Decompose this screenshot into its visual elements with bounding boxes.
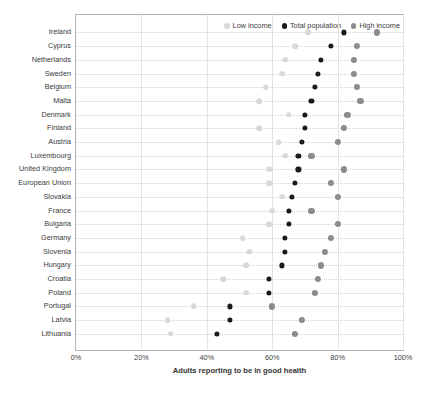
data-point-total-population[interactable] [342,30,347,35]
row-gridline [76,128,403,129]
data-point-low-income[interactable] [279,71,285,77]
row-gridline [76,211,403,212]
y-axis-label-croatia: Croatia [0,275,71,283]
data-point-high-income[interactable] [357,98,363,104]
x-axis-tick-label: 80% [330,353,345,363]
data-point-total-population[interactable] [227,304,232,309]
data-point-total-population[interactable] [302,112,307,117]
data-point-high-income[interactable] [321,249,327,255]
data-point-high-income[interactable] [328,180,334,186]
x-axis-tick-label: 0% [71,353,82,363]
data-point-total-population[interactable] [214,331,219,336]
data-point-total-population[interactable] [279,263,284,268]
y-axis-label-sweden: Sweden [0,70,71,78]
data-point-total-population[interactable] [289,194,294,199]
y-axis-label-poland: Poland [0,289,71,297]
row-gridline [76,156,403,157]
data-point-high-income[interactable] [299,317,305,323]
data-point-high-income[interactable] [335,194,341,200]
y-axis-label-germany: Germany [0,234,71,242]
data-point-low-income[interactable] [282,57,288,63]
y-axis-label-luxembourg: Luxembourg [0,152,71,160]
data-point-high-income[interactable] [335,139,341,145]
data-point-low-income[interactable] [168,331,174,337]
data-point-high-income[interactable] [292,331,298,337]
data-point-high-income[interactable] [335,221,341,227]
data-point-high-income[interactable] [315,276,321,282]
data-point-total-population[interactable] [328,44,333,49]
data-point-low-income[interactable] [220,276,226,282]
row-gridline [76,293,403,294]
data-point-total-population[interactable] [292,181,297,186]
data-point-total-population[interactable] [296,167,301,172]
data-point-total-population[interactable] [283,249,288,254]
data-point-low-income[interactable] [266,180,272,186]
y-axis-label-malta: Malta [0,97,71,105]
data-point-high-income[interactable] [318,262,324,268]
data-point-total-population[interactable] [266,276,271,281]
x-axis-tick-label: 40% [199,353,214,363]
data-point-high-income[interactable] [351,57,357,63]
data-point-high-income[interactable] [374,29,380,35]
data-point-low-income[interactable] [243,263,249,269]
y-axis-label-netherlands: Netherlands [0,56,71,64]
data-point-total-population[interactable] [286,208,291,213]
data-point-low-income[interactable] [269,208,275,214]
data-point-low-income[interactable] [263,84,269,90]
data-point-low-income[interactable] [282,153,288,159]
data-point-low-income[interactable] [256,126,262,132]
data-point-high-income[interactable] [312,290,318,296]
data-point-total-population[interactable] [227,318,232,323]
y-axis-label-belgium: Belgium [0,83,71,91]
y-axis-label-bulgaria: Bulgaria [0,220,71,228]
data-point-low-income[interactable] [305,30,311,36]
row-gridline [76,334,403,335]
data-point-total-population[interactable] [266,290,271,295]
data-point-total-population[interactable] [286,222,291,227]
row-gridline [76,224,403,225]
row-gridline [76,169,403,170]
data-point-total-population[interactable] [309,98,314,103]
data-point-low-income[interactable] [165,317,171,323]
data-point-total-population[interactable] [302,126,307,131]
data-point-high-income[interactable] [328,235,334,241]
data-point-high-income[interactable] [308,153,314,159]
data-point-low-income[interactable] [243,290,249,296]
row-gridline [76,265,403,266]
data-point-low-income[interactable] [256,98,262,104]
data-point-low-income[interactable] [266,221,272,227]
data-point-high-income[interactable] [344,112,350,118]
data-point-high-income[interactable] [341,125,347,131]
y-axis-label-cyprus: Cyprus [0,42,71,50]
data-point-total-population[interactable] [296,153,301,158]
row-gridline [76,32,403,33]
y-axis-label-united-kingdom: United Kingdom [0,165,71,173]
data-point-high-income[interactable] [308,207,314,213]
data-point-high-income[interactable] [351,70,357,76]
row-gridline [76,252,403,253]
data-point-low-income[interactable] [279,194,285,200]
data-point-low-income[interactable] [276,139,282,145]
data-point-total-population[interactable] [312,85,317,90]
row-gridline [76,142,403,143]
vertical-gridline [403,15,404,350]
data-point-total-population[interactable] [315,71,320,76]
data-point-low-income[interactable] [266,167,272,173]
data-point-high-income[interactable] [354,84,360,90]
data-point-low-income[interactable] [292,43,298,49]
data-point-high-income[interactable] [354,43,360,49]
data-point-total-population[interactable] [319,57,324,62]
data-point-low-income[interactable] [240,235,246,241]
data-point-high-income[interactable] [269,303,275,309]
data-point-low-income[interactable] [191,304,197,310]
data-point-low-income[interactable] [247,249,253,255]
y-axis-label-finland: Finland [0,124,71,132]
data-point-high-income[interactable] [341,166,347,172]
y-axis-label-latvia: Latvia [0,316,71,324]
x-axis-tick-label: 100% [394,353,413,363]
row-gridline [76,279,403,280]
data-point-total-population[interactable] [299,139,304,144]
data-point-total-population[interactable] [283,235,288,240]
data-point-low-income[interactable] [286,112,292,118]
row-gridline [76,101,403,102]
